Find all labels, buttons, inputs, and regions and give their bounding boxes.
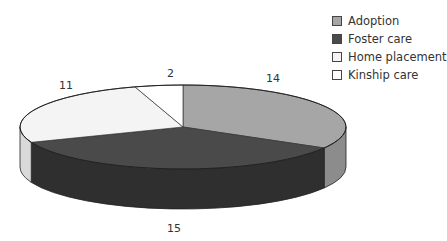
label-foster: 15 [167, 222, 181, 235]
legend-item-home: Home placement [332, 48, 447, 66]
legend-item-adoption: Adoption [332, 12, 447, 30]
legend-item-kinship: Kinship care [332, 66, 447, 84]
legend: Adoption Foster care Home placement Kins… [332, 12, 447, 84]
legend-label: Kinship care [348, 68, 418, 82]
legend-label: Adoption [348, 14, 399, 28]
label-home: 11 [59, 79, 73, 92]
legend-item-foster: Foster care [332, 30, 447, 48]
legend-label: Home placement [348, 50, 447, 64]
label-kinship: 2 [167, 67, 174, 80]
swatch-kinship [332, 70, 342, 80]
legend-label: Foster care [348, 32, 412, 46]
swatch-foster [332, 34, 342, 44]
label-adoption: 14 [266, 72, 280, 85]
swatch-adoption [332, 16, 342, 26]
swatch-home [332, 52, 342, 62]
